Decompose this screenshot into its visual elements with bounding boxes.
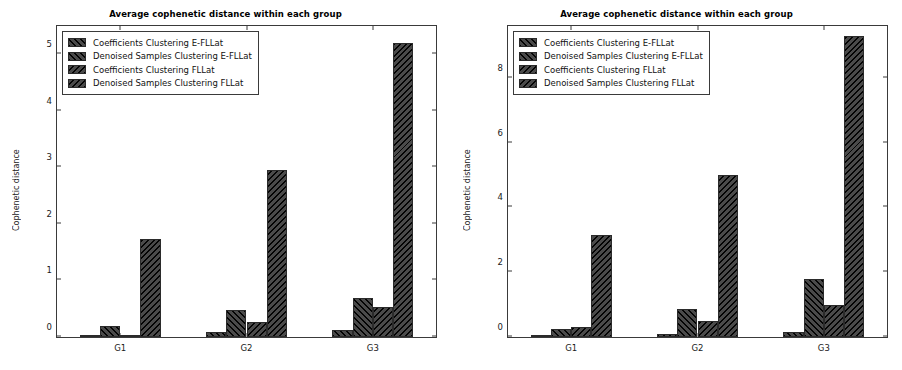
legend-swatch-icon <box>519 52 537 61</box>
legend-item: Coefficients Clustering FLLat <box>68 63 252 77</box>
bar <box>393 43 413 337</box>
y-axis-tick-mark <box>57 166 61 167</box>
bar <box>783 332 803 338</box>
y-axis-tick-mark <box>57 53 61 54</box>
x-axis-tick-mark <box>372 26 373 30</box>
x-axis-tick-mark <box>823 26 824 30</box>
y-axis-tick-mark <box>432 222 436 223</box>
y-axis-tick-label: 0 <box>47 322 57 332</box>
y-axis-tick-mark <box>432 166 436 167</box>
y-axis-tick-mark <box>883 336 887 337</box>
x-axis-tick-label: G1 <box>114 337 126 353</box>
bar <box>373 307 393 337</box>
legend-item: Denoised Samples Clustering E-FLLat <box>519 50 703 64</box>
bar <box>531 335 551 337</box>
y-axis-tick-label: 0 <box>498 322 508 332</box>
x-axis-tick-label: G1 <box>565 337 577 353</box>
y-axis-tick-mark <box>57 222 61 223</box>
y-axis-tick-mark <box>883 206 887 207</box>
y-axis-tick-mark <box>508 141 512 142</box>
y-axis-tick-mark <box>57 279 61 280</box>
bar <box>657 334 677 337</box>
y-axis-tick-mark <box>432 109 436 110</box>
legend-item: Coefficients Clustering FLLat <box>519 63 703 77</box>
legend-item-label: Coefficients Clustering E-FLLat <box>544 39 674 48</box>
bar <box>718 175 738 337</box>
y-axis-tick-mark <box>508 206 512 207</box>
legend-item-label: Coefficients Clustering E-FLLat <box>93 39 223 48</box>
legend-swatch-icon <box>519 38 537 47</box>
bar <box>353 298 373 337</box>
y-axis-tick-label: 2 <box>498 257 508 267</box>
bar <box>226 310 246 337</box>
right-panel: Average cophenetic distance within each … <box>451 0 902 370</box>
legend-item: Coefficients Clustering E-FLLat <box>519 36 703 50</box>
legend-item: Coefficients Clustering E-FLLat <box>68 36 252 50</box>
y-axis-tick-mark <box>432 53 436 54</box>
legend-item: Denoised Samples Clustering FLLat <box>519 77 703 91</box>
legend-swatch-icon <box>68 38 86 47</box>
y-axis-tick-label: 3 <box>47 152 57 162</box>
y-axis-tick-mark <box>432 279 436 280</box>
legend: Coefficients Clustering E-FLLatDenoised … <box>513 31 710 95</box>
x-axis-tick-label: G2 <box>241 337 253 353</box>
y-axis-tick-label: 4 <box>498 192 508 202</box>
legend-item-label: Denoised Samples Clustering FLLat <box>93 79 243 88</box>
chart-title: Average cophenetic distance within each … <box>0 9 451 19</box>
x-axis-tick-mark <box>246 26 247 30</box>
legend-item: Denoised Samples Clustering E-FLLat <box>68 50 252 64</box>
y-axis-tick-label: 4 <box>47 96 57 106</box>
bar <box>247 322 267 337</box>
x-axis-tick-mark <box>571 26 572 30</box>
y-axis-tick-label: 6 <box>498 128 508 138</box>
y-axis-label: Cophenetic distance <box>12 130 21 250</box>
legend-item-label: Denoised Samples Clustering E-FLLat <box>93 52 252 61</box>
x-axis-tick-label: G3 <box>367 337 379 353</box>
legend-swatch-icon <box>68 52 86 61</box>
legend-item-label: Coefficients Clustering FLLat <box>93 66 215 75</box>
bar <box>591 235 611 337</box>
bar <box>332 330 352 337</box>
x-axis-tick-label: G3 <box>818 337 830 353</box>
legend-swatch-icon <box>68 65 86 74</box>
y-axis-label: Cophenetic distance <box>463 130 472 250</box>
y-axis-tick-mark <box>883 141 887 142</box>
bar <box>571 327 591 337</box>
y-axis-tick-label: 5 <box>47 39 57 49</box>
y-axis-tick-mark <box>508 271 512 272</box>
bar <box>120 335 140 337</box>
x-axis-tick-label: G2 <box>692 337 704 353</box>
legend-swatch-icon <box>519 65 537 74</box>
y-axis-tick-mark <box>432 336 436 337</box>
figure: Average cophenetic distance within each … <box>0 0 902 370</box>
bar <box>206 332 226 337</box>
x-axis-tick-mark <box>120 26 121 30</box>
bar <box>551 329 571 337</box>
y-axis-tick-mark <box>57 336 61 337</box>
y-axis-tick-mark <box>883 271 887 272</box>
x-axis-tick-mark <box>697 26 698 30</box>
legend-item-label: Denoised Samples Clustering E-FLLat <box>544 52 703 61</box>
legend: Coefficients Clustering E-FLLatDenoised … <box>62 31 259 95</box>
legend-item: Denoised Samples Clustering FLLat <box>68 77 252 91</box>
y-axis-tick-mark <box>57 109 61 110</box>
bar <box>844 36 864 337</box>
y-axis-tick-mark <box>508 76 512 77</box>
y-axis-tick-mark <box>508 336 512 337</box>
left-panel: Average cophenetic distance within each … <box>0 0 451 370</box>
y-axis-tick-label: 8 <box>498 63 508 73</box>
bar <box>698 321 718 337</box>
y-axis-tick-mark <box>883 76 887 77</box>
bar <box>100 326 120 337</box>
legend-swatch-icon <box>68 79 86 88</box>
legend-item-label: Coefficients Clustering FLLat <box>544 66 666 75</box>
legend-swatch-icon <box>519 79 537 88</box>
y-axis-tick-label: 2 <box>47 209 57 219</box>
bar <box>140 239 160 337</box>
bar <box>267 170 287 337</box>
bar <box>824 305 844 337</box>
bar <box>677 309 697 337</box>
y-axis-tick-label: 1 <box>47 265 57 275</box>
chart-title: Average cophenetic distance within each … <box>451 9 902 19</box>
bar <box>804 279 824 337</box>
